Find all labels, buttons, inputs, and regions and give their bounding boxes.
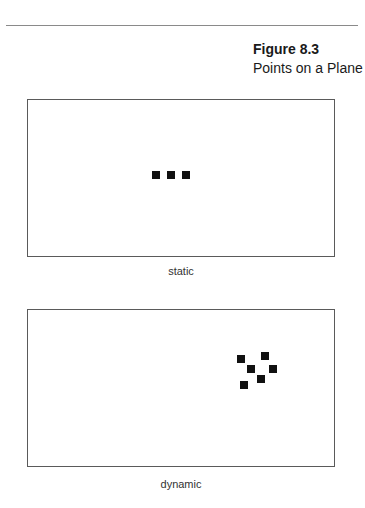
dynamic-point [257, 375, 265, 383]
figure-title: Points on a Plane [253, 60, 363, 76]
dynamic-point [240, 381, 248, 389]
dynamic-panel-label: dynamic [27, 478, 335, 490]
dynamic-point [269, 365, 277, 373]
static-panel [27, 99, 335, 257]
dynamic-point [247, 365, 255, 373]
top-rule [6, 25, 358, 26]
dynamic-point [237, 355, 245, 363]
figure-caption: Figure 8.3 Points on a Plane [253, 41, 363, 76]
dynamic-point [261, 352, 269, 360]
dynamic-panel [27, 309, 335, 467]
static-panel-label: static [27, 265, 335, 277]
figure-number: Figure 8.3 [253, 41, 363, 57]
static-point [167, 171, 175, 179]
static-point [182, 171, 190, 179]
static-point [152, 171, 160, 179]
